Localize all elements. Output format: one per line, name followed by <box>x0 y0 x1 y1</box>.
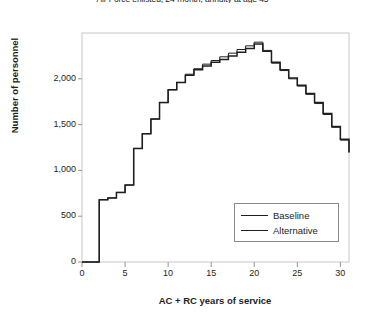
legend: Baseline Alternative <box>234 203 339 242</box>
legend-line-icon <box>241 215 268 216</box>
legend-line-icon <box>241 230 268 231</box>
figure: Air Force enlisted, 24-month, annuity at… <box>0 0 365 319</box>
legend-label: Baseline <box>273 210 309 221</box>
legend-label: Alternative <box>273 225 318 236</box>
plot-area <box>0 0 365 319</box>
legend-item-baseline: Baseline <box>241 208 309 222</box>
legend-item-alternative: Alternative <box>241 223 318 237</box>
